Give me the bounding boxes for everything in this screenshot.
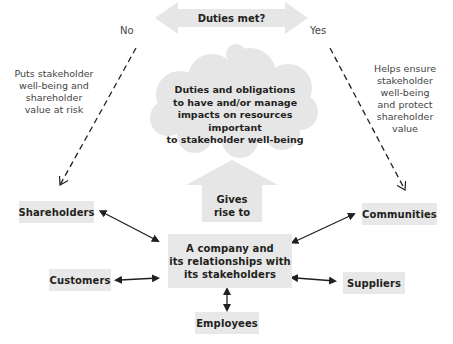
customers-box: Customers [49, 269, 111, 291]
employees-box: Employees [195, 312, 259, 334]
decision-label: Duties met? [178, 12, 285, 25]
arrow-customers [120, 278, 158, 280]
arrow-communities [296, 214, 354, 241]
right-outcome-text: Helps ensure stakeholder well-being and … [365, 63, 445, 135]
arrow-shareholders [104, 213, 158, 241]
shareholders-box: Shareholders [19, 201, 94, 223]
company-box: A company and its relationships with its… [168, 234, 292, 288]
arrow-suppliers [296, 278, 335, 281]
communities-box: Communities [362, 203, 437, 225]
cloud-text: Duties and obligations to have and/or ma… [150, 84, 320, 147]
left-outcome-text: Puts stakeholder well-being and sharehol… [10, 68, 98, 116]
yes-label: Yes [310, 25, 326, 37]
gives-rise-text: Gives rise to [202, 193, 262, 219]
suppliers-box: Suppliers [343, 272, 405, 294]
no-label: No [120, 25, 134, 37]
